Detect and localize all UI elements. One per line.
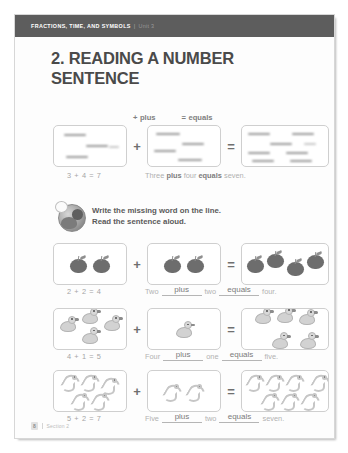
worm-icon — [92, 393, 109, 408]
ducks-box-right — [147, 308, 221, 350]
footer-section-label: Section 2 — [47, 423, 70, 429]
worms-box-left — [53, 370, 127, 412]
footer-divider — [42, 423, 43, 429]
header-chapter-title: FRACTIONS, TIME, AND SYMBOLS|Unit 3 — [31, 23, 154, 29]
plus-sign-icon: + — [133, 113, 137, 122]
ducks-box-left — [53, 308, 127, 350]
equals-sign-icon: = — [182, 113, 186, 122]
worm-icon — [164, 384, 181, 399]
apples-sentence-first: Two — [145, 287, 159, 296]
page-header-band: FRACTIONS, TIME, AND SYMBOLS|Unit 3 — [15, 15, 334, 37]
example-caption: 3 + 4 = 7 Three plus four equals seven. — [15, 171, 334, 183]
example-sentence-first: Three — [145, 171, 164, 180]
worm-icon — [287, 374, 304, 389]
apples-sentence-second: two — [205, 287, 217, 296]
ducks-blank-1[interactable]: plus — [163, 350, 203, 361]
ducks-total-items — [242, 309, 328, 349]
problem-row-ducks: + = — [15, 308, 334, 354]
example-left-strokes — [54, 126, 126, 166]
apples-operator-equals: = — [221, 257, 241, 272]
symbol-key-equals: =equals — [182, 113, 213, 122]
worm-icon — [267, 374, 284, 389]
ducks-operator-equals: = — [221, 322, 241, 337]
teacher-badge-icon — [55, 201, 85, 231]
instruction-line-2: Read the sentence aloud. — [92, 216, 221, 227]
duck-icon — [175, 321, 194, 338]
worm-icon — [187, 384, 204, 399]
apples-total-items — [242, 244, 328, 284]
symbol-key-equals-label: equals — [189, 113, 213, 122]
worms-operator-plus: + — [127, 384, 147, 399]
header-separator: | — [134, 23, 136, 29]
example-box-right — [147, 125, 221, 167]
example-sentence-plus: plus — [166, 171, 181, 180]
apple-icon — [187, 256, 204, 273]
problem-row-worms: + = — [15, 370, 334, 416]
example-sentence-equals: equals — [198, 171, 221, 180]
apple-icon — [267, 251, 284, 268]
worms-operator-equals: = — [221, 384, 241, 399]
example-right-strokes — [148, 126, 220, 166]
worms-blank-2[interactable]: equals — [219, 412, 259, 423]
ducks-sentence: Four plus one equals five. — [145, 350, 278, 361]
duck-icon — [103, 314, 122, 331]
apples-left-items — [54, 244, 126, 284]
apples-equation-text: 2 + 2 = 4 — [67, 287, 102, 296]
worms-sentence-result: seven. — [262, 414, 284, 423]
apples-boxes: + = — [53, 243, 329, 285]
apples-box-right — [147, 243, 221, 285]
apples-operator-plus: + — [127, 257, 147, 272]
worms-total-items — [242, 371, 328, 411]
duck-icon — [59, 315, 78, 332]
ducks-blank-2[interactable]: equals — [222, 350, 262, 361]
worm-icon — [302, 393, 319, 408]
apple-icon — [93, 256, 110, 273]
apple-icon — [287, 259, 304, 276]
example-sentence-result: seven. — [224, 171, 246, 180]
example-equation-text: 3 + 4 = 7 — [67, 171, 102, 180]
worms-blank-1[interactable]: plus — [162, 412, 202, 423]
example-total-strokes — [242, 126, 328, 166]
worms-sentence-first: Five — [145, 414, 159, 423]
speech-bubble-icon — [55, 201, 68, 213]
worms-left-items — [54, 371, 126, 411]
footer-page-number: 8 — [31, 422, 38, 430]
apples-sentence-result: four. — [262, 287, 276, 296]
symbol-key: +plus =equals — [133, 113, 213, 122]
apple-icon — [247, 256, 264, 273]
header-unit-label: Unit 3 — [139, 23, 155, 29]
duck-icon — [299, 332, 318, 349]
apples-box-total — [241, 243, 329, 285]
worksheet-page: FRACTIONS, TIME, AND SYMBOLS|Unit 3 2. R… — [14, 14, 335, 439]
ducks-boxes: + = — [53, 308, 329, 350]
example-box-total — [241, 125, 329, 167]
header-chapter-label: FRACTIONS, TIME, AND SYMBOLS — [31, 23, 131, 29]
worm-icon — [262, 393, 279, 408]
duck-icon — [81, 327, 100, 344]
example-operator-equals: = — [221, 139, 241, 154]
worm-icon — [247, 374, 264, 389]
worm-icon — [82, 374, 99, 389]
ducks-sentence-result: five. — [265, 352, 279, 361]
worms-box-total — [241, 370, 329, 412]
apples-blank-1[interactable]: plus — [162, 285, 202, 296]
worms-boxes: + = — [53, 370, 329, 412]
worm-icon — [72, 393, 89, 408]
example-boxes: + = — [53, 125, 329, 167]
example-equation-row: + = — [15, 125, 334, 171]
ducks-sentence-first: Four — [145, 352, 160, 361]
worms-box-right — [147, 370, 221, 412]
worms-right-items — [148, 371, 220, 411]
ducks-box-total — [241, 308, 329, 350]
duck-icon — [254, 308, 273, 324]
ducks-left-items — [54, 309, 126, 349]
ducks-equation-text: 4 + 1 = 5 — [67, 352, 102, 361]
worm-icon — [62, 374, 79, 389]
worms-equation-text: 5 + 2 = 7 — [67, 414, 102, 423]
apples-blank-2[interactable]: equals — [219, 285, 259, 296]
duck-icon — [81, 308, 100, 324]
ducks-sentence-second: one — [206, 352, 218, 361]
worm-icon — [312, 374, 329, 389]
worms-sentence-second: two — [205, 414, 217, 423]
symbol-key-plus-label: plus — [140, 113, 156, 122]
